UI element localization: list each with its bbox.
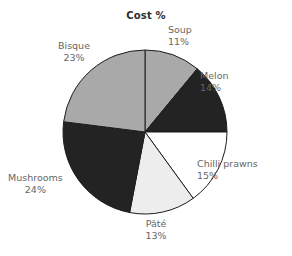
- pie-label-melon-name: Melon: [200, 70, 229, 82]
- pie-label-bisque-value: 23%: [48, 52, 100, 64]
- pie-label-melon: Melon 14%: [200, 70, 229, 94]
- pie-label-soup-name: Soup: [168, 24, 192, 36]
- pie-label-chilli-prawns: Chilli prawns 15%: [197, 158, 258, 182]
- pie-label-mushrooms: Mushrooms 24%: [8, 172, 63, 196]
- pie-slice-mushrooms: [63, 122, 145, 213]
- pie-label-chilli-prawns-name: Chilli prawns: [197, 158, 258, 170]
- pie-label-bisque-name: Bisque: [48, 40, 100, 52]
- pie-label-chilli-prawns-value: 15%: [197, 170, 258, 182]
- pie-label-mushrooms-value: 24%: [8, 184, 63, 196]
- pie-label-soup: Soup 11%: [168, 24, 192, 48]
- pie-label-mushrooms-name: Mushrooms: [8, 172, 63, 184]
- pie-label-soup-value: 11%: [168, 36, 192, 48]
- pie-label-pate-value: 13%: [133, 230, 179, 242]
- pie-label-pate: Pâté 13%: [133, 218, 179, 242]
- pie-label-pate-name: Pâté: [133, 218, 179, 230]
- pie-chart: Cost % Soup 11% Melon 14% Chilli prawns …: [0, 0, 292, 256]
- pie-label-bisque: Bisque 23%: [48, 40, 100, 64]
- pie-label-melon-value: 14%: [200, 82, 229, 94]
